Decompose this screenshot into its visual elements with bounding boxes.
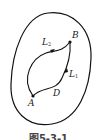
- diagram-figure: B A D L2 L1 图5-3-1: [0, 0, 97, 140]
- diagram-canvas: [0, 0, 97, 140]
- curve-l1-label: L1: [69, 70, 78, 79]
- point-a-label: A: [28, 99, 35, 108]
- curve-l1-subscript: 1: [75, 73, 78, 79]
- point-b-dot: [68, 40, 71, 43]
- region-d-label: D: [53, 89, 60, 98]
- curve-l2-subscript: 2: [48, 41, 51, 47]
- figure-caption: 图5-3-1: [0, 134, 97, 140]
- point-b-label: B: [72, 31, 79, 40]
- outer-boundary-curve: [11, 13, 91, 125]
- curve-l2-label: L2: [42, 38, 51, 47]
